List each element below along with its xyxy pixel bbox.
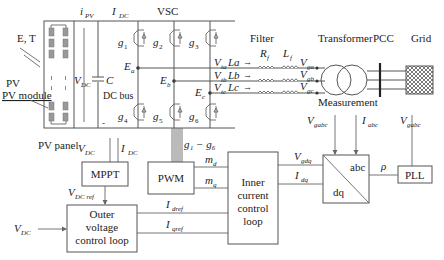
svg-text:g₁ − g₆: g₁ − g₆ xyxy=(184,138,216,150)
irradiance-temperature-input: E, T xyxy=(17,32,40,67)
svg-text:I: I xyxy=(294,169,300,181)
vsc-label: VSC xyxy=(157,5,178,17)
svg-text:ga: ga xyxy=(307,63,315,71)
svg-text:Inner: Inner xyxy=(241,176,265,188)
svg-text:→: → xyxy=(243,70,252,80)
svg-text:dref: dref xyxy=(172,205,184,213)
svg-text:voltage: voltage xyxy=(86,221,118,233)
pwm-block: PWM xyxy=(148,162,194,194)
svg-text:control: control xyxy=(237,202,268,214)
svg-text:tc: tc xyxy=(221,88,227,96)
svg-text:DC bus: DC bus xyxy=(103,90,133,101)
svg-text:f: f xyxy=(267,54,270,62)
svg-text:PLL: PLL xyxy=(405,169,425,181)
svg-text:dq: dq xyxy=(333,186,345,198)
mppt-block: MPPT xyxy=(82,162,128,186)
svg-text:current: current xyxy=(237,189,268,201)
svg-text:Transformer: Transformer xyxy=(318,32,373,44)
svg-text:b: b xyxy=(167,81,171,89)
svg-text:DC ref: DC ref xyxy=(74,193,95,201)
svg-text:Lc: Lc xyxy=(227,81,239,93)
svg-text:5: 5 xyxy=(159,117,163,125)
svg-text:E: E xyxy=(123,60,131,72)
svg-text:gb: gb xyxy=(307,75,315,83)
svg-text:dq: dq xyxy=(301,176,309,184)
svg-text:ta: ta xyxy=(221,63,227,71)
inner-current-control-loop-block: Inner current control loop xyxy=(228,152,278,244)
svg-text:Measurement: Measurement xyxy=(318,96,378,108)
svg-text:6: 6 xyxy=(195,117,199,125)
svg-text:PV: PV xyxy=(84,12,94,20)
svg-text:I: I xyxy=(111,5,117,17)
grid-block xyxy=(406,66,433,94)
svg-text:-: - xyxy=(102,118,105,128)
svg-text:C: C xyxy=(106,74,114,86)
abc-dq-transform-block: abc dq xyxy=(323,155,369,203)
svg-text:m: m xyxy=(205,174,213,186)
svg-text:DC: DC xyxy=(80,81,91,89)
svg-text:I: I xyxy=(361,114,367,126)
svg-text:La: La xyxy=(227,56,240,68)
svg-text:i: i xyxy=(80,5,83,17)
vsc-bridge xyxy=(134,21,218,128)
svg-text:MPPT: MPPT xyxy=(91,168,120,180)
svg-text:DC: DC xyxy=(118,12,129,20)
svg-text:control loop: control loop xyxy=(75,234,129,246)
svg-text:gabc: gabc xyxy=(407,121,422,129)
filter-label: Filter xyxy=(250,32,274,44)
svg-text:a: a xyxy=(131,67,135,75)
svg-text:abc: abc xyxy=(368,121,379,129)
svg-text:1: 1 xyxy=(124,43,128,51)
svg-text:c: c xyxy=(202,93,206,101)
svg-text:Outer: Outer xyxy=(89,208,114,220)
svg-text:I: I xyxy=(165,218,171,230)
svg-text:d: d xyxy=(213,160,217,168)
svg-text:gc: gc xyxy=(307,87,315,95)
svg-text:PV module: PV module xyxy=(2,89,52,101)
svg-text:4: 4 xyxy=(124,117,128,125)
svg-text:qref: qref xyxy=(172,225,184,233)
svg-text:ρ: ρ xyxy=(380,160,386,172)
svg-text:DC: DC xyxy=(20,229,31,237)
pv-panel xyxy=(44,21,74,128)
pv-module-label: PV xyxy=(6,77,20,89)
svg-text:PCC: PCC xyxy=(373,32,394,44)
svg-text:f: f xyxy=(290,54,293,62)
svg-text:DC: DC xyxy=(127,149,138,157)
transformer xyxy=(321,65,367,95)
svg-text:q: q xyxy=(213,181,217,189)
svg-text:L: L xyxy=(282,47,289,59)
svg-text:PWM: PWM xyxy=(158,172,185,184)
pv-panel-label: PV panel xyxy=(38,139,78,151)
pv-system-diagram: E, T PV PV module PV panel i PV I DC VSC… xyxy=(0,0,444,260)
svg-text:→: → xyxy=(243,57,252,67)
svg-text:Grid: Grid xyxy=(411,32,432,44)
svg-text:gabc: gabc xyxy=(314,121,329,129)
svg-text:2: 2 xyxy=(159,43,163,51)
svg-text:Lb: Lb xyxy=(227,69,240,81)
outer-voltage-control-loop-block: Outer voltage control loop xyxy=(67,205,137,252)
svg-text:gdq: gdq xyxy=(301,157,312,165)
svg-text:R: R xyxy=(259,47,267,59)
svg-text:abc: abc xyxy=(350,161,365,173)
svg-text:E: E xyxy=(159,74,167,86)
svg-text:DC: DC xyxy=(84,149,95,157)
svg-text:m: m xyxy=(205,153,213,165)
svg-text:I: I xyxy=(165,198,171,210)
svg-text:loop: loop xyxy=(243,215,263,227)
svg-text:I: I xyxy=(120,142,126,154)
svg-text:tb: tb xyxy=(221,76,227,84)
svg-text:E: E xyxy=(194,86,202,98)
svg-text:3: 3 xyxy=(195,43,199,51)
svg-text:E, T: E, T xyxy=(17,32,36,44)
svg-text:→: → xyxy=(243,82,252,92)
